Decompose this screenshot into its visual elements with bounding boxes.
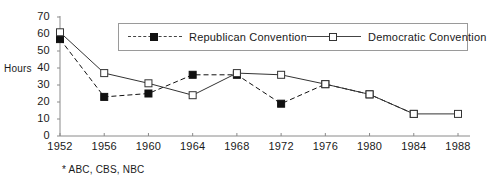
legend-label-republican: Republican Convention — [189, 31, 307, 43]
data-point — [145, 90, 152, 97]
data-point — [145, 80, 152, 87]
legend-swatch-democratic — [307, 31, 361, 43]
data-point — [410, 110, 417, 117]
data-point — [366, 91, 373, 98]
legend: Republican Convention Democratic Convent… — [118, 23, 468, 51]
data-point — [57, 36, 64, 43]
data-point — [278, 100, 285, 107]
footnote: * ABC, CBS, NBC — [62, 164, 144, 175]
legend-label-democratic: Democratic Convention — [368, 31, 487, 43]
data-point — [101, 70, 108, 77]
data-point — [322, 81, 329, 88]
legend-item-republican[interactable]: Republican Convention — [128, 31, 307, 43]
legend-item-democratic[interactable]: Democratic Convention — [307, 31, 487, 43]
data-point — [455, 110, 462, 117]
data-point — [101, 93, 108, 100]
data-point — [189, 71, 196, 78]
data-point — [278, 71, 285, 78]
data-point — [189, 92, 196, 99]
data-point — [57, 29, 64, 36]
legend-swatch-republican — [128, 31, 182, 43]
data-point — [233, 70, 240, 77]
